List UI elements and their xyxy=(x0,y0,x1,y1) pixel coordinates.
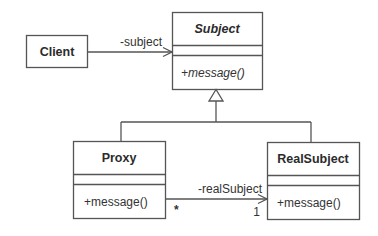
class-client-name: Client xyxy=(40,45,76,59)
class-proxy-operation: +message() xyxy=(84,195,148,209)
role-label-subject: -subject xyxy=(120,35,163,49)
multiplicity-target: 1 xyxy=(253,205,260,219)
association-proxy-realsubject: -realSubject * 1 xyxy=(166,182,268,219)
class-subject-operation: +message() xyxy=(181,66,245,80)
multiplicity-source: * xyxy=(174,203,179,217)
class-client: Client xyxy=(27,36,88,68)
generalization-tree xyxy=(121,90,311,143)
uml-diagram-canvas: Client Subject +message() -subject Proxy… xyxy=(0,0,378,236)
class-realsubject-operation: +message() xyxy=(277,196,341,210)
class-proxy: Proxy +message() xyxy=(74,142,166,219)
inheritance-triangle-icon xyxy=(209,90,223,102)
class-proxy-name: Proxy xyxy=(102,151,137,165)
role-label-realsubject: -realSubject xyxy=(198,182,263,196)
class-realsubject: RealSubject +message() xyxy=(268,143,360,220)
association-client-subject: -subject xyxy=(88,35,173,57)
class-realsubject-name: RealSubject xyxy=(277,152,349,166)
class-subject-name: Subject xyxy=(194,22,240,36)
class-subject: Subject +message() xyxy=(173,13,263,90)
